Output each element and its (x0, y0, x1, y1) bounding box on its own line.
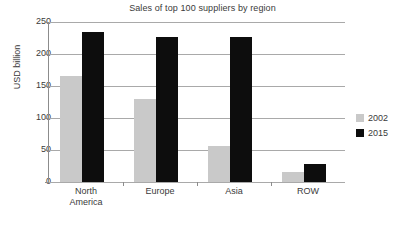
bar-2002-Asia (208, 146, 230, 182)
chart-title: Sales of top 100 suppliers by region (0, 3, 405, 13)
bar-2015-Europe (156, 37, 178, 182)
bar-chart: Sales of top 100 suppliers by region USD… (0, 0, 405, 226)
bar-2015-ROW (304, 164, 326, 182)
legend-label-2015: 2015 (368, 128, 388, 138)
legend-swatch-2015 (356, 129, 364, 137)
gridline-250 (49, 22, 345, 23)
bar-2002-Europe (134, 99, 156, 182)
y-tick-mark-100 (45, 118, 49, 119)
y-tick-mark-50 (45, 150, 49, 151)
y-tick-mark-250 (45, 22, 49, 23)
y-axis-line (48, 22, 49, 182)
legend-item-2015[interactable]: 2015 (356, 125, 388, 140)
bar-2015-Asia (230, 37, 252, 182)
bar-2002-North-America (60, 76, 82, 182)
y-tick-mark-0 (45, 182, 49, 183)
legend-item-2002[interactable]: 2002 (356, 110, 388, 125)
chart-legend: 20022015 (356, 110, 388, 140)
plot-area (49, 22, 345, 182)
bar-2015-North-America (82, 32, 104, 182)
y-tick-mark-150 (45, 86, 49, 87)
legend-label-2002: 2002 (368, 113, 388, 123)
y-tick-mark-200 (45, 54, 49, 55)
x-category-label-ROW: ROW (263, 186, 353, 197)
legend-swatch-2002 (356, 114, 364, 122)
bar-2002-ROW (282, 172, 304, 182)
y-axis-title: USD billion (12, 17, 22, 117)
